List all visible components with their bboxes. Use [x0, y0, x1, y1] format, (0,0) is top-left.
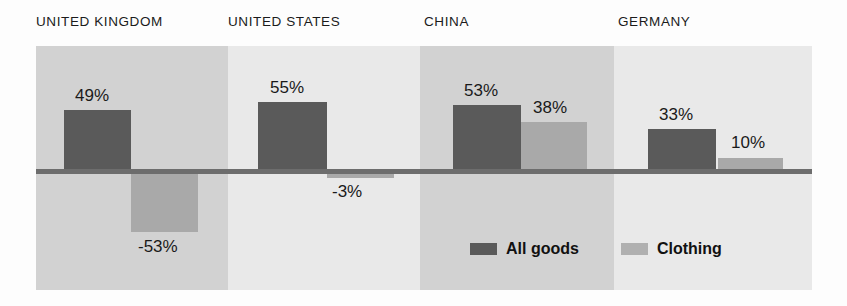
- value-label-united-kingdom-clothing: -53%: [138, 237, 178, 257]
- chart-root: UNITED KINGDOM UNITED STATES CHINA GERMA…: [0, 0, 847, 306]
- value-label-united-states-all-goods: 55%: [270, 78, 304, 98]
- bar-united-kingdom-clothing: [131, 174, 198, 232]
- bar-china-all-goods: [453, 105, 521, 171]
- value-label-united-states-clothing: -3%: [332, 182, 362, 202]
- bar-germany-all-goods: [648, 129, 716, 171]
- legend-label-clothing: Clothing: [657, 240, 722, 258]
- value-label-china-clothing: 38%: [533, 98, 567, 118]
- zero-baseline-axis: [36, 169, 812, 174]
- country-label-china: CHINA: [424, 14, 469, 29]
- legend-swatch-all-goods-icon: [470, 243, 497, 255]
- value-label-united-kingdom-all-goods: 49%: [75, 86, 109, 106]
- legend-item-clothing[interactable]: Clothing: [621, 240, 722, 258]
- bar-united-states-all-goods: [258, 102, 327, 171]
- legend-label-all-goods: All goods: [506, 240, 579, 258]
- value-label-germany-all-goods: 33%: [659, 105, 693, 125]
- legend-swatch-clothing-icon: [621, 243, 648, 255]
- country-label-germany: GERMANY: [618, 14, 690, 29]
- value-label-germany-clothing: 10%: [731, 133, 765, 153]
- chart-legend: All goods Clothing: [470, 240, 722, 258]
- country-label-united-states: UNITED STATES: [228, 14, 340, 29]
- bar-united-kingdom-all-goods: [64, 110, 131, 171]
- bar-china-clothing: [521, 122, 587, 171]
- value-label-china-all-goods: 53%: [464, 81, 498, 101]
- country-label-united-kingdom: UNITED KINGDOM: [36, 14, 163, 29]
- bar-united-states-clothing: [327, 174, 394, 178]
- legend-item-all-goods[interactable]: All goods: [470, 240, 579, 258]
